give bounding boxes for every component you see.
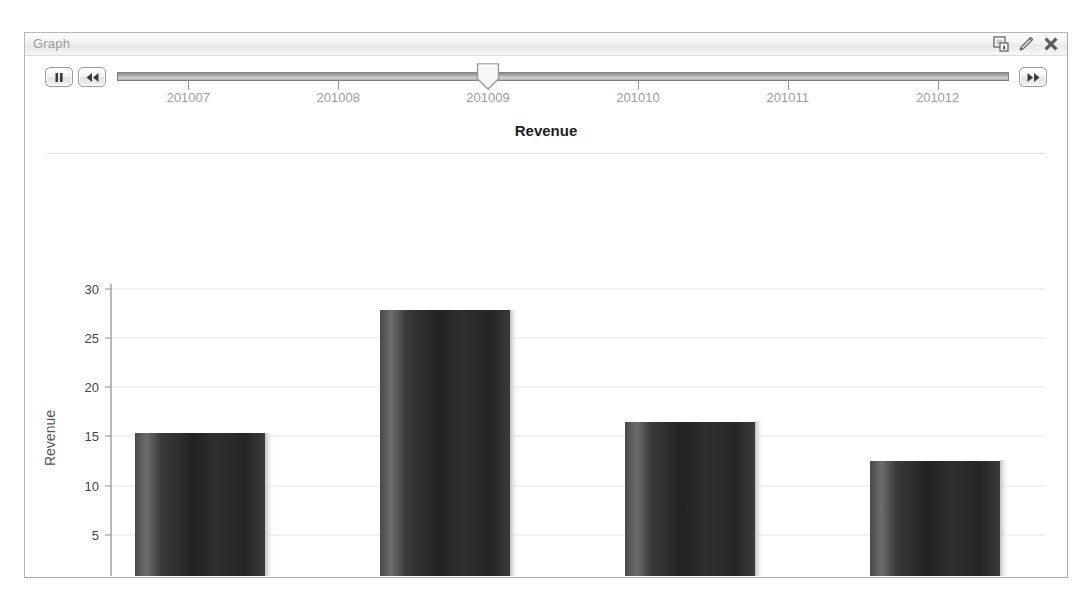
bar-snacks[interactable]: [870, 461, 1000, 576]
bar-shadow: [1000, 460, 1009, 576]
bars: [135, 310, 1009, 576]
y-tick-label: 25: [85, 331, 99, 346]
slider-tick: [788, 81, 789, 90]
y-tick-label: 30: [85, 282, 99, 297]
close-icon[interactable]: [1041, 34, 1061, 54]
forward-button[interactable]: [1019, 67, 1047, 87]
slider-tick-label: 201011: [767, 90, 809, 105]
time-slider[interactable]: 201007 201008 201009 201010 201011 20101…: [117, 56, 1009, 108]
slider-tick-label: 201012: [916, 90, 959, 105]
edit-pencil-icon[interactable]: [1016, 34, 1036, 54]
slider-tick: [638, 81, 639, 90]
slider-tick-label: 201008: [317, 90, 360, 105]
y-tick-marks: [105, 289, 111, 576]
pause-icon: [53, 72, 65, 83]
slider-tick: [188, 81, 189, 90]
bar-shadow: [510, 310, 519, 576]
bar-bread[interactable]: [135, 433, 265, 576]
slider-tick-label: 201009: [466, 90, 509, 105]
forward-icon: [1026, 72, 1041, 83]
time-slider-control: 201007 201008 201009 201010 201011 20101…: [25, 56, 1067, 108]
bar-gifts[interactable]: [625, 422, 755, 576]
slider-tick-label: 201007: [167, 90, 210, 105]
slider-tick: [338, 81, 339, 90]
titlebar-icon-group: [991, 34, 1061, 54]
chart-container: Revenue: [25, 108, 1067, 576]
rewind-button[interactable]: [78, 67, 106, 87]
bar-chart: 30 25 20 15 10 5 0 Revenue: [25, 108, 1067, 576]
y-tick-label: 20: [85, 380, 99, 395]
y-tick-label: 15: [85, 429, 99, 444]
y-tick-label: 5: [92, 528, 99, 543]
rewind-icon: [85, 72, 100, 83]
graph-portlet: Graph: [24, 32, 1068, 578]
slider-track[interactable]: [117, 72, 1009, 81]
y-tick-label: 10: [85, 479, 99, 494]
pause-button[interactable]: [45, 67, 73, 87]
duplicate-icon[interactable]: [991, 34, 1011, 54]
slider-tick-label: 201010: [616, 90, 659, 105]
bar-shadow: [755, 421, 764, 576]
slider-thumb[interactable]: [476, 63, 501, 90]
portlet-title: Graph: [33, 36, 70, 51]
slider-tick: [938, 81, 939, 90]
portlet-titlebar: Graph: [25, 33, 1067, 56]
bar-shadow: [265, 433, 274, 576]
y-axis-title: Revenue: [42, 410, 58, 466]
bar-drinks[interactable]: [380, 310, 510, 576]
